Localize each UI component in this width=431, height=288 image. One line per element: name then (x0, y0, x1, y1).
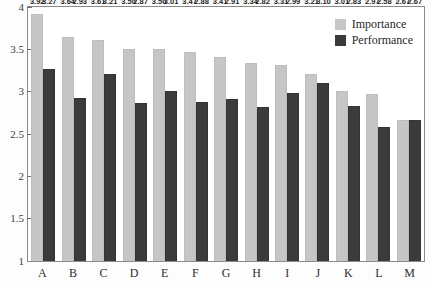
bar-group: 3.923.27 (28, 7, 58, 261)
y-axis-tick-label: 1.5 (10, 213, 27, 224)
bar-importance-I: 3.31 (275, 65, 287, 261)
bar-performance-H: 2.82 (257, 107, 269, 261)
bar-performance-F: 2.88 (196, 102, 208, 261)
y-axis-tick-label: 2 (19, 171, 28, 182)
bar-wrap: 3.31 (275, 7, 287, 261)
bar-performance-A: 3.27 (43, 69, 55, 261)
bar-group: 3.342.82 (241, 7, 271, 261)
legend-swatch-performance (335, 35, 346, 46)
bar-wrap: 2.88 (196, 7, 208, 261)
bar-group: 3.613.21 (89, 7, 119, 261)
bar-value-label: 2.58 (377, 0, 392, 6)
bar-importance-D: 3.50 (123, 49, 135, 261)
bar-importance-F: 3.47 (184, 52, 196, 261)
bar-performance-E: 3.01 (165, 91, 177, 261)
bar-wrap: 2.82 (257, 7, 269, 261)
x-axis-label-A: A (27, 264, 58, 284)
y-axis-tick-label: 2.5 (10, 129, 27, 140)
y-axis-tick-label: 3 (19, 86, 28, 97)
bar-performance-L: 2.58 (378, 127, 390, 261)
bar-group: 3.642.93 (58, 7, 88, 261)
bar-importance-L: 2.97 (366, 94, 378, 261)
bar-group: 3.312.99 (272, 7, 302, 261)
bar-group: 3.412.91 (211, 7, 241, 261)
bar-value-label: 2.99 (286, 0, 301, 6)
bar-value-label: 3.27 (42, 0, 57, 6)
x-axis-label-F: F (180, 264, 211, 284)
bar-value-label: 3.01 (164, 0, 179, 6)
bar-importance-M: 2.67 (397, 120, 409, 261)
bar-performance-I: 2.99 (287, 93, 299, 261)
bar-chart-figure: 11.522.533.54 3.923.273.642.933.613.213.… (0, 0, 431, 288)
bar-performance-K: 2.83 (348, 106, 360, 261)
x-axis-label-I: I (272, 264, 303, 284)
bar-importance-J: 3.21 (305, 74, 317, 261)
legend-label: Performance (352, 34, 413, 46)
legend-swatch-importance (335, 19, 346, 30)
bar-importance-C: 3.61 (92, 40, 104, 261)
y-axis-tick-label: 3.5 (10, 44, 27, 55)
x-axis-label-H: H (241, 264, 272, 284)
bar-importance-G: 3.41 (214, 57, 226, 261)
bar-performance-C: 3.21 (104, 74, 116, 261)
x-axis-label-C: C (88, 264, 119, 284)
bar-wrap: 3.27 (43, 7, 55, 261)
bar-wrap: 2.99 (287, 7, 299, 261)
bar-value-label: 2.93 (72, 0, 87, 6)
legend-item-performance: Performance (335, 34, 413, 46)
bar-group: 3.213.10 (302, 7, 332, 261)
bar-value-label: 2.87 (133, 0, 148, 6)
bar-wrap: 3.01 (165, 7, 177, 261)
bar-wrap: 3.41 (214, 7, 226, 261)
bar-performance-B: 2.93 (74, 98, 86, 261)
bar-importance-K: 3.01 (336, 91, 348, 261)
bar-group: 3.503.01 (150, 7, 180, 261)
x-axis-label-E: E (149, 264, 180, 284)
bar-performance-J: 3.10 (317, 83, 329, 261)
bar-wrap: 3.64 (62, 7, 74, 261)
bar-wrap: 2.87 (135, 7, 147, 261)
bar-wrap: 3.61 (92, 7, 104, 261)
bar-value-label: 2.82 (255, 0, 270, 6)
bar-importance-B: 3.64 (62, 37, 74, 261)
x-axis-label-D: D (119, 264, 150, 284)
bar-value-label: 2.67 (408, 0, 423, 6)
bar-performance-D: 2.87 (135, 103, 147, 261)
bar-wrap: 3.21 (305, 7, 317, 261)
bar-group: 3.472.88 (180, 7, 210, 261)
x-axis-label-G: G (211, 264, 242, 284)
bar-wrap: 3.34 (245, 7, 257, 261)
x-axis-label-K: K (333, 264, 364, 284)
y-axis: 11.522.533.54 (0, 6, 27, 262)
bar-value-label: 2.91 (225, 0, 240, 6)
bar-wrap: 2.93 (74, 7, 86, 261)
bar-wrap: 3.92 (31, 7, 43, 261)
x-axis-label-B: B (58, 264, 89, 284)
legend-item-importance: Importance (335, 18, 413, 30)
bar-performance-M: 2.67 (409, 120, 421, 261)
bar-wrap: 3.50 (123, 7, 135, 261)
bar-wrap: 3.47 (184, 7, 196, 261)
y-axis-tick-label: 4 (19, 2, 28, 13)
bar-value-label: 2.88 (194, 0, 209, 6)
legend-label: Importance (352, 18, 407, 30)
chart-legend: ImportancePerformance (335, 18, 413, 46)
x-axis-label-J: J (302, 264, 333, 284)
x-axis-label-M: M (394, 264, 425, 284)
bar-value-label: 3.10 (316, 0, 331, 6)
bar-wrap: 3.21 (104, 7, 116, 261)
y-axis-tick-label: 1 (19, 256, 28, 267)
bar-group: 3.502.87 (119, 7, 149, 261)
bar-importance-H: 3.34 (245, 63, 257, 261)
bar-performance-G: 2.91 (226, 99, 238, 261)
bar-wrap: 2.91 (226, 7, 238, 261)
bar-importance-A: 3.92 (31, 14, 43, 261)
bar-value-label: 2.83 (347, 0, 362, 6)
bar-wrap: 3.10 (317, 7, 329, 261)
x-axis-label-L: L (364, 264, 395, 284)
x-axis: ABCDEFGHIJKLM (27, 264, 425, 284)
bar-importance-E: 3.50 (153, 49, 165, 261)
bar-value-label: 3.21 (103, 0, 118, 6)
bar-wrap: 3.50 (153, 7, 165, 261)
